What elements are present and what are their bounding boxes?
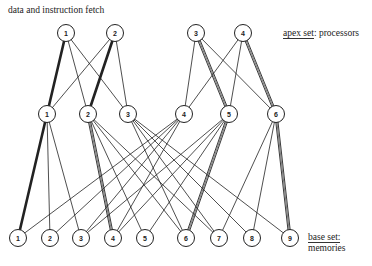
base-node-2: 2	[42, 230, 59, 247]
base-node-5: 5	[137, 230, 154, 247]
apex-set-term: apex set	[283, 28, 314, 39]
title-label: data and instruction fetch	[8, 5, 104, 16]
apex-set-description: : processors	[314, 28, 359, 38]
base-node-9: 9	[282, 230, 299, 247]
edge-m1-b3	[47, 114, 81, 238]
base-node-label: 5	[143, 235, 147, 242]
edge-a1-m3	[66, 33, 128, 114]
edge-m2-b7	[88, 114, 219, 238]
base-set-term: base set:	[308, 232, 340, 243]
edge-a3-m5	[195, 33, 230, 115]
apex-node-label: 1	[64, 30, 68, 37]
apex-node-2: 2	[107, 25, 124, 42]
edge-m1-b2	[47, 114, 50, 238]
base-set-description: memories	[308, 243, 345, 254]
apex-node-4: 4	[235, 25, 252, 42]
base-node-4: 4	[105, 230, 122, 247]
middle-node-label: 1	[45, 111, 49, 118]
apex-node-label: 2	[113, 30, 117, 37]
base-node-label: 1	[16, 235, 20, 242]
edge-a1-m2	[66, 33, 88, 114]
apex-node-label: 4	[241, 30, 245, 37]
base-node-label: 7	[217, 235, 221, 242]
base-node-1: 1	[10, 230, 27, 247]
edge-a4-m5	[229, 33, 243, 114]
base-set-label: base set: memories	[308, 232, 345, 254]
base-node-label: 2	[48, 235, 52, 242]
base-node-label: 6	[184, 235, 188, 242]
edge-m5-b5	[145, 114, 229, 238]
edge-a2-m2	[88, 33, 115, 114]
apex-node-3: 3	[188, 25, 205, 42]
bipartite-network-diagram: 1234123456123456789	[0, 0, 372, 266]
middle-node-label: 6	[274, 111, 278, 118]
apex-node-label: 3	[194, 30, 198, 37]
base-node-label: 3	[79, 235, 83, 242]
middle-node-label: 4	[182, 111, 186, 118]
edge-a2-m3	[115, 33, 128, 114]
edge-a4-m4	[184, 33, 243, 114]
base-node-7: 7	[211, 230, 228, 247]
edge-a4-m6	[242, 33, 277, 115]
base-node-8: 8	[244, 230, 261, 247]
base-node-label: 9	[288, 235, 292, 242]
middle-node-label: 5	[227, 111, 231, 118]
middle-node-6: 6	[268, 106, 285, 123]
edge-m4-b2	[50, 114, 184, 238]
edges-layer	[18, 33, 291, 239]
middle-node-3: 3	[120, 106, 137, 123]
middle-node-5: 5	[221, 106, 238, 123]
edge-m6-b7	[219, 114, 276, 238]
edge-m6-b9	[275, 114, 291, 238]
base-node-3: 3	[73, 230, 90, 247]
middle-node-label: 2	[86, 111, 90, 118]
base-node-label: 8	[250, 235, 254, 242]
apex-node-1: 1	[58, 25, 75, 42]
middle-node-4: 4	[176, 106, 193, 123]
middle-node-2: 2	[80, 106, 97, 123]
middle-node-label: 3	[126, 111, 130, 118]
base-node-6: 6	[178, 230, 195, 247]
apex-set-label: apex set: processors	[283, 28, 359, 39]
edge-a3-m4	[184, 33, 196, 114]
base-node-label: 4	[111, 235, 115, 242]
middle-node-1: 1	[39, 106, 56, 123]
edge-m6-b8	[252, 114, 276, 238]
edge-a1-m1	[47, 33, 66, 114]
edge-m3-b8	[128, 114, 252, 238]
